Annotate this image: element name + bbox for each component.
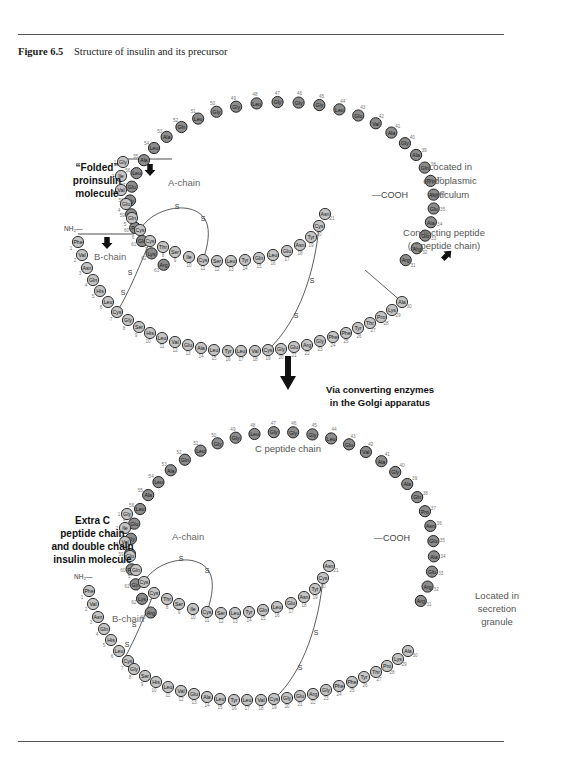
residue-bead: His10 bbox=[144, 327, 155, 343]
residue-bead: Gly8 bbox=[122, 314, 133, 330]
residue-number: 6 bbox=[136, 587, 139, 592]
residue-number: 42 bbox=[379, 114, 385, 119]
residue-bead: Leu6 bbox=[111, 645, 125, 658]
residue-label: Leu bbox=[227, 258, 236, 264]
residue-bead: Gln52 bbox=[173, 118, 187, 133]
connecting-peptide-label: Connecting peptide (C peptide chain) bbox=[394, 226, 494, 252]
residue-number: 22 bbox=[310, 700, 316, 705]
residue-number: 27 bbox=[370, 328, 376, 333]
residue-bead: Tyr26 bbox=[352, 322, 363, 338]
residue-label: Ser bbox=[213, 258, 221, 264]
residue-number: 9 bbox=[135, 333, 138, 338]
residue-bead: Lys62 bbox=[131, 593, 147, 605]
residue-label: His bbox=[96, 288, 104, 294]
residue-label: Gly bbox=[322, 687, 330, 693]
residue-number: 39 bbox=[412, 476, 418, 481]
residue-bead: Ser9 bbox=[139, 670, 150, 686]
residue-number: 45 bbox=[312, 423, 318, 428]
residue-number: 30 bbox=[406, 304, 412, 309]
residue-number: 29 bbox=[395, 313, 401, 318]
residue-number: 5 bbox=[103, 643, 106, 648]
residue-bead: Ser9 bbox=[133, 321, 144, 337]
residue-number: 54 bbox=[149, 474, 155, 479]
residue-bead: Leu16 bbox=[271, 601, 282, 617]
residue-label: Ala bbox=[388, 130, 396, 136]
residue-number: 43 bbox=[350, 434, 356, 439]
residue-number: 31 bbox=[426, 602, 432, 607]
residue-bead: Gln15 bbox=[257, 604, 268, 620]
residue-label: Thr bbox=[372, 669, 380, 675]
residue-label: Asn bbox=[426, 523, 435, 529]
residue-label: Cys bbox=[319, 575, 328, 581]
residue-label: Gly bbox=[315, 102, 323, 108]
residue-number: 5 bbox=[92, 294, 95, 299]
residue-label: Leu bbox=[158, 335, 167, 341]
residue-label: Leu bbox=[216, 696, 225, 702]
residue-bead: Lys62 bbox=[141, 248, 157, 261]
residue-bead: Leu54 bbox=[149, 474, 164, 487]
residue-number: 45 bbox=[319, 94, 325, 99]
residue-bead: Ala30 bbox=[402, 645, 418, 657]
residue-label: Glu bbox=[122, 201, 130, 207]
residue-number: 35 bbox=[440, 538, 446, 543]
residue-number: 22 bbox=[304, 351, 310, 356]
residue-bead: Gly47 bbox=[272, 91, 283, 108]
residue-label: Gln bbox=[100, 626, 108, 632]
residue-bead: Leu16 bbox=[267, 249, 278, 265]
residue-number: 5 bbox=[128, 574, 131, 579]
residue-number: 7 bbox=[121, 666, 124, 671]
residue-number: 20 bbox=[284, 704, 290, 709]
residue-label: Arg bbox=[402, 257, 410, 263]
residue-number: 4 bbox=[96, 632, 99, 637]
folded-proinsulin-title: “Folded” proinsulin molecule bbox=[52, 161, 142, 200]
residue-label: Cys bbox=[199, 257, 208, 263]
residue-label: Glu bbox=[290, 344, 298, 350]
residue-label: Arg bbox=[160, 262, 168, 268]
residue-number: 7 bbox=[149, 599, 152, 604]
residue-number: 50 bbox=[211, 433, 217, 438]
residue-number: 62 bbox=[141, 256, 147, 261]
residue-label: Cys bbox=[203, 609, 212, 615]
residue-bead: Val2 bbox=[74, 249, 88, 262]
residue-number: 2 bbox=[85, 607, 88, 612]
top-a-chain-label: A-chain bbox=[168, 177, 200, 188]
sulfur-label: S bbox=[298, 664, 303, 671]
residue-bead: Ser12 bbox=[215, 607, 226, 623]
residue-label: Phe bbox=[328, 334, 337, 340]
residue-number: 19 bbox=[308, 243, 314, 248]
residue-bead: Ala30 bbox=[396, 296, 412, 308]
residue-number: 51 bbox=[191, 109, 197, 114]
residue-label: Asn bbox=[94, 614, 103, 620]
residue-bead: Gly23 bbox=[320, 684, 331, 700]
residue-label: Val bbox=[257, 697, 264, 703]
residue-label: Pro bbox=[421, 509, 429, 515]
residue-label: Cys bbox=[113, 309, 122, 315]
residue-label: Ala bbox=[427, 220, 435, 226]
residue-bead: Val12 bbox=[169, 336, 180, 352]
residue-number: 11 bbox=[205, 618, 210, 623]
sulfur-label: S bbox=[128, 269, 133, 276]
residue-label: Leu bbox=[231, 610, 240, 616]
residue-label: Arg bbox=[303, 342, 311, 348]
residue-label: Cys bbox=[136, 227, 145, 233]
residue-bead: Phe25 bbox=[346, 676, 357, 692]
residue-label: Thr bbox=[366, 320, 374, 326]
residue-label: Ala bbox=[403, 481, 411, 487]
residue-number: 12 bbox=[214, 267, 220, 272]
residue-bead: His5 bbox=[92, 285, 106, 298]
residue-bead: Leu44 bbox=[334, 99, 346, 115]
residue-bead: Glu43 bbox=[343, 434, 356, 450]
residue-label: Glu bbox=[430, 206, 438, 212]
b-chain-down-arrow-icon bbox=[102, 237, 113, 249]
residue-number: 8 bbox=[129, 675, 132, 680]
residue-number: 51 bbox=[193, 441, 199, 446]
residue-bead: Glu13 bbox=[188, 688, 199, 704]
bottom-cooh-label: —COOH bbox=[374, 533, 410, 543]
residue-label: Val bbox=[251, 348, 258, 354]
residue-number: 11 bbox=[201, 266, 206, 271]
residue-bead: Cys11 bbox=[197, 254, 208, 270]
residue-label: Leu bbox=[154, 479, 163, 485]
residue-bead: Cys11 bbox=[201, 606, 212, 622]
residue-number: 24 bbox=[336, 692, 342, 697]
residue-number: 10 bbox=[190, 615, 196, 620]
